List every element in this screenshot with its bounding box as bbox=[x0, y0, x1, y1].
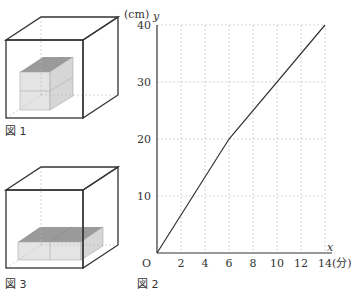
x-tick-labels: 2468101214 bbox=[178, 257, 333, 270]
x-tick-label: 14 bbox=[318, 257, 332, 270]
x-tick-label: 8 bbox=[250, 257, 257, 270]
x-tick-label: 6 bbox=[226, 257, 233, 270]
y-tick-label: 10 bbox=[137, 190, 151, 203]
x-tick-label: 10 bbox=[270, 257, 284, 270]
y-tick-labels: 10203040 bbox=[137, 19, 151, 203]
y-unit-label: (cm) bbox=[124, 8, 149, 21]
x-tick-label: 4 bbox=[202, 257, 209, 270]
origin-label: O bbox=[142, 257, 151, 270]
y-tick-label: 20 bbox=[137, 133, 151, 146]
x-var-label: x bbox=[327, 241, 334, 254]
x-tick-label: 12 bbox=[294, 257, 308, 270]
x-unit-label: (分) bbox=[332, 257, 352, 270]
x-tick-label: 2 bbox=[178, 257, 185, 270]
y-var-label: y bbox=[152, 10, 160, 23]
figure-1-caption: 図 1 bbox=[5, 122, 27, 138]
grid-lines bbox=[157, 25, 325, 253]
figure-3-caption: 図 3 bbox=[5, 275, 27, 291]
figure-3-cube bbox=[0, 150, 120, 280]
figure-2-caption: 図 2 bbox=[137, 275, 159, 291]
y-tick-label: 30 bbox=[137, 76, 151, 89]
figure-2-graph: 10203040 2468101214 (cm) y x (分) O bbox=[120, 0, 353, 275]
figure-1-cube bbox=[0, 0, 120, 130]
